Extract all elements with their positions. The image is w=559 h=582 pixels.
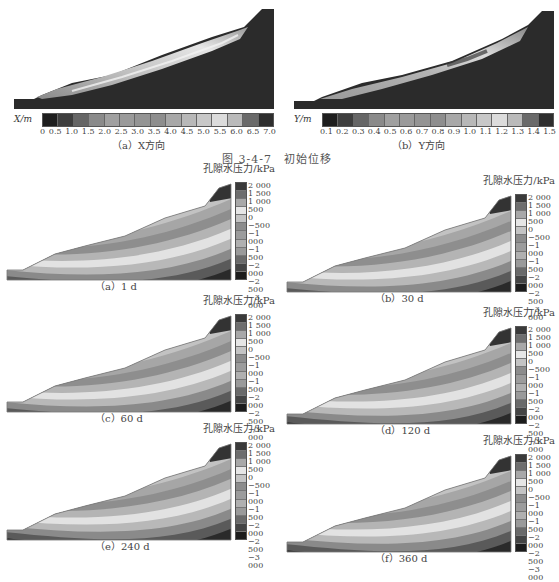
pore-pressure-panel-3: 孔隙水压力/kPa 2 0001 5001 0005000−500−1 000−…	[5, 292, 275, 422]
colorbar-swatch	[369, 114, 384, 126]
colorbar-swatch	[212, 114, 227, 126]
colorbar-swatch	[400, 114, 415, 126]
pore-pressure-colorbar-ticks: 2 0001 5001 0005000−500−1 000−1 500−2 00…	[248, 182, 275, 282]
colorbar-swatch	[516, 520, 526, 528]
colorbar-swatch	[516, 268, 526, 276]
colorbar-swatch	[236, 323, 246, 331]
colorbar-swatch	[516, 195, 526, 203]
colorbar-swatch	[236, 459, 246, 467]
pore-pressure-colorbar	[235, 182, 247, 280]
colorbar-tick: 3.0	[131, 127, 144, 136]
pore-pressure-panel-caption: （a）1 d	[95, 278, 137, 293]
colorbar-tick: −3 000	[528, 566, 555, 582]
colorbar-tick: 0.9	[448, 127, 461, 136]
colorbar-tick: −1 500	[528, 518, 555, 534]
colorbar-swatch	[236, 524, 246, 532]
x-colorbar-ticks: 00.51.01.52.02.53.03.54.04.55.05.56.06.5…	[40, 127, 276, 136]
pore-pressure-unit-label: 孔隙水压力/kPa	[203, 160, 275, 175]
y-colorbar	[322, 113, 554, 127]
colorbar-tick: 0.3	[352, 127, 365, 136]
colorbar-swatch	[236, 272, 246, 279]
pore-pressure-colorbar-ticks: 2 0001 5001 0005000−500−1 000−1 500−2 00…	[248, 314, 275, 414]
colorbar-swatch	[236, 372, 246, 380]
colorbar-tick: 2.0	[98, 127, 111, 136]
colorbar-swatch	[539, 114, 553, 126]
colorbar-swatch	[228, 114, 243, 126]
colorbar-tick: −1 000	[248, 490, 275, 506]
colorbar-tick: −1 500	[248, 506, 275, 522]
colorbar-tick: −2 500	[248, 538, 275, 554]
colorbar-swatch	[516, 392, 526, 400]
colorbar-swatch	[259, 114, 273, 126]
colorbar-swatch	[236, 256, 246, 264]
colorbar-tick: −1 500	[248, 246, 275, 262]
colorbar-swatch	[151, 114, 166, 126]
colorbar-swatch	[508, 114, 523, 126]
colorbar-tick: 5.0	[197, 127, 210, 136]
slope-pore-pressure-plot	[5, 174, 233, 282]
colorbar-tick: 2.5	[115, 127, 128, 136]
colorbar-tick: −1 000	[528, 374, 555, 390]
colorbar-swatch	[516, 219, 526, 227]
pore-pressure-panel-2: 孔隙水压力/kPa 2 0001 5001 0005000−500−1 000−…	[285, 172, 555, 302]
colorbar-swatch	[236, 443, 246, 451]
colorbar-tick: −2 000	[248, 394, 275, 410]
colorbar-tick: 0.6	[400, 127, 413, 136]
colorbar-swatch	[492, 114, 507, 126]
colorbar-tick: −1 500	[248, 378, 275, 394]
colorbar-swatch	[236, 231, 246, 239]
colorbar-swatch	[516, 343, 526, 351]
colorbar-swatch	[58, 114, 73, 126]
colorbar-tick: 6.5	[247, 127, 260, 136]
slope-pore-pressure-plot	[285, 446, 513, 554]
colorbar-swatch	[166, 114, 181, 126]
colorbar-swatch	[516, 495, 526, 503]
colorbar-swatch	[516, 487, 526, 495]
pore-pressure-colorbar-ticks: 2 0001 5001 0005000−500−1 000−1 500−2 00…	[248, 442, 275, 542]
colorbar-tick: 0.7	[416, 127, 429, 136]
colorbar-tick: 0.4	[368, 127, 381, 136]
colorbar-tick: 1.3	[511, 127, 524, 136]
pore-pressure-panel-5: 孔隙水压力/kPa 2 0001 5001 0005000−500−1 000−…	[5, 420, 275, 550]
pore-pressure-unit-label: 孔隙水压力/kPa	[203, 420, 275, 435]
colorbar-swatch	[243, 114, 258, 126]
pore-pressure-panel-caption: （e）240 d	[95, 538, 150, 553]
colorbar-swatch	[523, 114, 538, 126]
colorbar-swatch	[236, 475, 246, 483]
colorbar-tick: 0.8	[432, 127, 445, 136]
pore-pressure-colorbar	[515, 326, 527, 424]
pore-pressure-panel-1: 孔隙水压力/kPa 2 0001 5001 0005000−500−1 000−…	[5, 160, 275, 290]
pore-pressure-unit-label: 孔隙水压力/kPa	[483, 172, 555, 187]
colorbar-swatch	[516, 327, 526, 335]
colorbar-swatch	[385, 114, 400, 126]
colorbar-swatch	[338, 114, 353, 126]
colorbar-swatch	[236, 451, 246, 459]
colorbar-tick: −2 000	[528, 274, 555, 290]
colorbar-tick: 1.4	[527, 127, 540, 136]
pore-pressure-colorbar-ticks: 2 0001 5001 0005000−500−1 000−1 500−2 00…	[528, 326, 555, 426]
slope-pore-pressure-plot	[5, 434, 233, 542]
colorbar-tick: −3 000	[248, 554, 275, 570]
colorbar-swatch	[516, 471, 526, 479]
pore-pressure-panel-6: 孔隙水压力/kPa 2 0001 5001 0005000−500−1 000−…	[285, 432, 555, 562]
colorbar-tick: 1.5	[543, 127, 556, 136]
colorbar-swatch	[516, 284, 526, 291]
pore-pressure-colorbar	[235, 442, 247, 540]
pore-pressure-panel-caption: （f）360 d	[375, 550, 427, 565]
colorbar-swatch	[236, 223, 246, 231]
colorbar-swatch	[135, 114, 150, 126]
colorbar-swatch	[516, 400, 526, 408]
colorbar-swatch	[236, 467, 246, 475]
pore-pressure-unit-label: 孔隙水压力/kPa	[483, 304, 555, 319]
colorbar-tick: −1 000	[248, 230, 275, 246]
colorbar-tick: 1.0	[463, 127, 476, 136]
colorbar-swatch	[236, 183, 246, 191]
colorbar-tick: 6.0	[230, 127, 243, 136]
colorbar-swatch	[516, 359, 526, 367]
colorbar-swatch	[236, 207, 246, 215]
colorbar-tick: 4.0	[164, 127, 177, 136]
colorbar-swatch	[415, 114, 430, 126]
colorbar-tick: 0.5	[384, 127, 397, 136]
colorbar-tick: −1 000	[528, 242, 555, 258]
caption-y-direction: （b）Y方向	[392, 137, 445, 152]
